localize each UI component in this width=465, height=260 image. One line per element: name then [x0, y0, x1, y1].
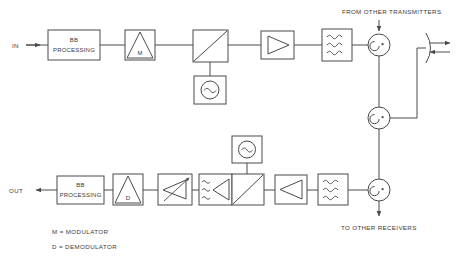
rx-low-noise-amplifier-block [275, 175, 307, 204]
input-label: IN [12, 42, 19, 49]
modulator-block: M [125, 30, 155, 60]
tx-bb-label-line1: BB [70, 37, 78, 43]
tx-oscillator-block [194, 76, 226, 104]
rf-transceiver-diagram: IN BB PROCESSING M [0, 0, 465, 260]
circulator-top [368, 34, 390, 56]
antenna-feed-wires [390, 48, 426, 118]
rx-rf-filter-block [318, 174, 348, 205]
tx-mixer-block [193, 30, 228, 62]
block-diagram-canvas: IN BB PROCESSING M [0, 0, 465, 260]
tx-filter-block [322, 29, 352, 61]
rx-oscillator-block [232, 136, 262, 163]
modulator-label: M [138, 50, 143, 56]
to-other-receivers-label: TO OTHER RECEIVERS [341, 224, 417, 231]
circulator-bottom [368, 179, 390, 201]
tx-amplifier-block [261, 31, 294, 59]
legend-item-modulator: M = MODULATOR [52, 228, 108, 235]
rx-bb-label-line2: PROCESSING [59, 192, 101, 198]
antenna-dish-icon [426, 33, 450, 63]
demodulator-label: D [126, 195, 131, 201]
rx-baseband-processing-block: BB PROCESSING [57, 176, 104, 204]
demodulator-block: D [113, 174, 143, 205]
legend-item-demodulator: D = DEMODULATOR [52, 243, 117, 250]
rx-mixer-block [232, 174, 264, 205]
rx-variable-gain-amplifier-block [158, 174, 192, 205]
output-label: OUT [9, 187, 23, 194]
rx-bb-label-line1: BB [76, 182, 84, 188]
tx-bb-label-line2: PROCESSING [53, 47, 95, 53]
tx-baseband-processing-block: BB PROCESSING [48, 30, 100, 60]
from-other-transmitters-label: FROM OTHER TRANSMITTERS [342, 8, 441, 15]
circulator-middle [368, 107, 390, 129]
rx-if-filter-amplifier-block [199, 174, 232, 205]
